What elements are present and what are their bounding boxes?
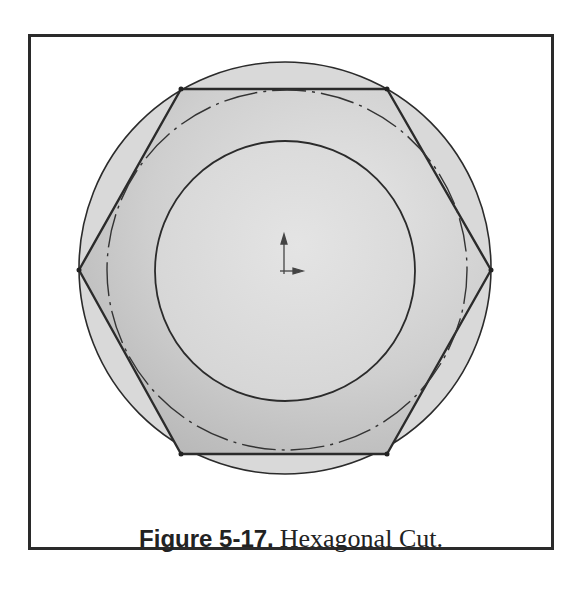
figure-title: Hexagonal Cut. <box>280 524 443 553</box>
figure-number: Figure 5-17. <box>139 525 274 552</box>
hexagonal-cut-drawing <box>0 0 566 614</box>
figure-caption: Figure 5-17. Hexagonal Cut. <box>28 524 554 554</box>
